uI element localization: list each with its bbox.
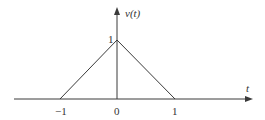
y-axis-label: v(t) bbox=[125, 7, 141, 20]
triangle-pulse-diagram: v(t) t 1 −1 0 1 bbox=[0, 0, 265, 120]
x-axis-label: t bbox=[246, 82, 250, 94]
tick-label-neg1: −1 bbox=[55, 105, 67, 117]
x-axis-arrow-icon bbox=[245, 96, 253, 102]
peak-label: 1 bbox=[108, 33, 114, 45]
tick-label-0: 0 bbox=[114, 105, 120, 117]
y-axis-arrow-icon bbox=[114, 7, 120, 15]
tick-label-1: 1 bbox=[172, 105, 178, 117]
